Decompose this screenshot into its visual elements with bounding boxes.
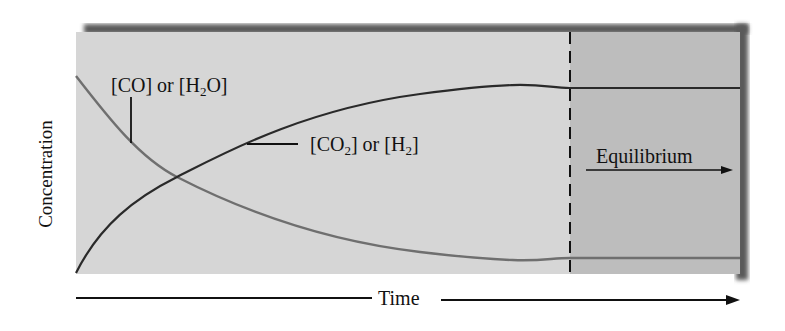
equilibrium-label: Equilibrium (596, 146, 693, 166)
x-axis-label: Time (378, 288, 420, 308)
y-axis-label: Concentration (35, 120, 57, 228)
product-curve-label: [CO2] or [H2] (310, 134, 419, 154)
equilibrium-diagram: Concentration [CO] or [H2O] [CO2] or [H2… (0, 0, 785, 331)
reactant-curve-label: [CO] or [H2O] (111, 75, 227, 95)
